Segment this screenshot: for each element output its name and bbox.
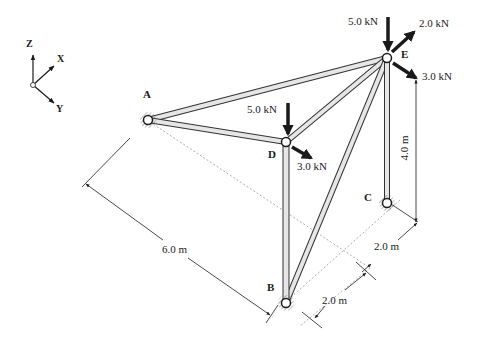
- dimension-6m: [82, 138, 278, 323]
- node-label-A: A: [143, 88, 151, 100]
- truss-members: [148, 58, 387, 303]
- load-E-x-label: 2.0 kN: [419, 17, 449, 29]
- joint-B: [282, 299, 291, 308]
- coordinate-axes: Z X Y: [26, 38, 65, 114]
- z-axis-label: Z: [26, 38, 33, 49]
- joint-E: [383, 54, 392, 63]
- dimension-6m-label: 6.0 m: [162, 243, 188, 255]
- dimension-2m-B-label: 2.0 m: [322, 294, 348, 306]
- y-axis-label: Y: [56, 103, 64, 114]
- dimension-4m-label: 4.0 m: [398, 135, 410, 161]
- dimension-2m-C-label: 2.0 m: [374, 240, 400, 252]
- x-axis-label: X: [57, 53, 65, 64]
- node-label-C: C: [364, 191, 372, 203]
- load-E-y-label: 3.0 kN: [422, 70, 452, 82]
- load-D-y-label: 3.0 kN: [297, 160, 327, 172]
- load-D-vertical-label: 5.0 kN: [247, 103, 277, 115]
- node-label-D: D: [268, 148, 276, 160]
- joint-C: [383, 199, 392, 208]
- node-label-B: B: [267, 281, 275, 293]
- truss-diagram: Z X Y: [0, 0, 479, 350]
- node-label-E: E: [401, 48, 408, 60]
- joint-D: [282, 138, 291, 147]
- load-E-vertical-label: 5.0 kN: [348, 15, 378, 27]
- joint-A: [144, 116, 153, 125]
